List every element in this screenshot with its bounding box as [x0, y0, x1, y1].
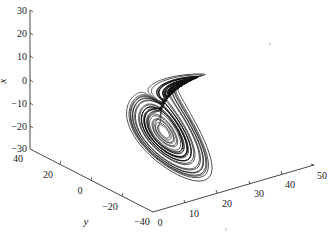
y-tick-label: 40	[13, 153, 23, 164]
attractor-3d-chart: 30 20 10 0 −10 −20 −30 x 40 20 0 −20 −40…	[0, 0, 330, 242]
attractor-trajectory	[127, 74, 212, 181]
x-tick-label: 10	[17, 51, 27, 62]
y-tick-label: 20	[43, 169, 53, 180]
x-tick-label: 0	[22, 75, 27, 86]
x-axis-label: x	[0, 78, 8, 84]
x-tick-label: −10	[11, 98, 27, 109]
z-axis: 0 10 20 30 40 50 τ	[153, 164, 327, 233]
y-tick-label: −40	[134, 216, 150, 227]
z-tick-label: 20	[222, 198, 232, 209]
z-tick-label: 40	[285, 179, 295, 190]
annotation-label: τ	[269, 40, 272, 48]
y-axis-label: y	[83, 215, 89, 227]
x-tick-label: 20	[17, 28, 27, 39]
z-tick-label: 50	[317, 170, 327, 181]
x-tick-label: −20	[11, 121, 27, 132]
z-tick-label: 30	[254, 188, 264, 199]
y-tick-label: 0	[78, 185, 83, 196]
y-tick-label: −20	[102, 201, 118, 212]
z-tick-label: 10	[189, 208, 199, 219]
y-axis: 40 20 0 −20 −40 y	[13, 149, 153, 227]
z-tick-label: 0	[158, 217, 163, 228]
x-tick-label: 30	[17, 5, 27, 16]
z-axis-label: τ	[225, 225, 228, 233]
x-axis: 30 20 10 0 −10 −20 −30 x	[0, 5, 33, 154]
